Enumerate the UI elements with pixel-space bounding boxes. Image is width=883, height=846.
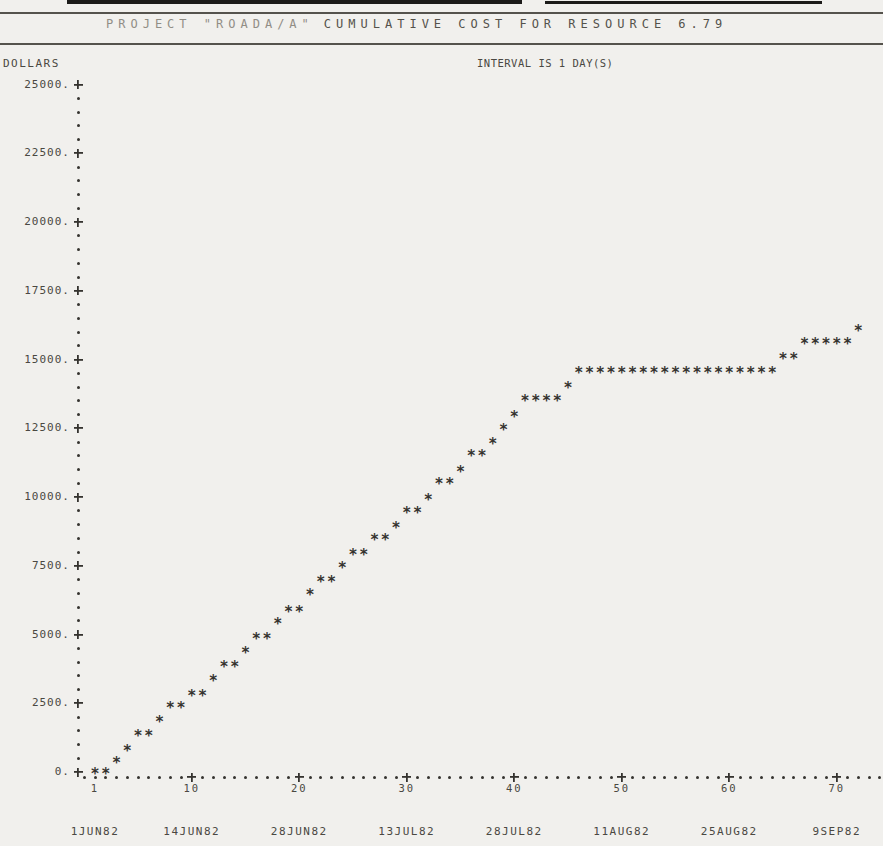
x-axis-major-tick: [295, 773, 304, 782]
y-axis-major-tick: [74, 493, 83, 502]
y-axis-minor-tick: [77, 399, 80, 402]
y-axis-major-tick: [74, 218, 83, 227]
x-axis-minor-tick: [266, 776, 269, 779]
data-point: *: [456, 465, 465, 480]
data-point: *: [574, 366, 583, 381]
data-point: *: [596, 366, 605, 381]
y-axis-minor-tick: [77, 551, 80, 554]
x-axis-label: 70: [817, 782, 857, 794]
y-axis-minor-tick: [77, 674, 80, 677]
x-axis-major-tick: [832, 773, 841, 782]
x-axis-minor-tick: [373, 776, 376, 779]
data-point: *: [811, 337, 820, 352]
data-point: *: [843, 337, 852, 352]
y-axis-major-tick: [74, 355, 83, 364]
x-axis-minor-tick: [674, 776, 677, 779]
data-point: *: [306, 588, 315, 603]
x-axis-minor-tick: [470, 776, 473, 779]
data-point: *: [854, 324, 863, 339]
x-axis-minor-tick: [459, 776, 462, 779]
data-point: *: [424, 493, 433, 508]
data-point: *: [295, 605, 304, 620]
x-axis-minor-tick: [857, 776, 860, 779]
y-axis-major-tick: [74, 149, 83, 158]
y-axis-major-tick: [74, 768, 83, 777]
data-point: *: [671, 366, 680, 381]
y-axis-label: 5000.: [0, 628, 70, 641]
y-axis-major-tick: [74, 80, 83, 89]
x-axis-minor-tick: [427, 776, 430, 779]
y-axis-minor-tick: [77, 179, 80, 182]
y-axis-minor-tick: [77, 606, 80, 609]
x-axis-minor-tick: [276, 776, 279, 779]
data-point: *: [521, 394, 530, 409]
data-point: *: [381, 533, 390, 548]
y-axis-minor-tick: [77, 303, 80, 306]
data-point: *: [779, 352, 788, 367]
data-point: *: [639, 366, 648, 381]
data-point: *: [273, 617, 282, 632]
x-axis-minor-tick: [567, 776, 570, 779]
y-axis-minor-tick: [77, 317, 80, 320]
x-axis-minor-tick: [631, 776, 634, 779]
x-axis-major-tick: [617, 773, 626, 782]
x-axis-minor-tick: [169, 776, 172, 779]
data-point: *: [112, 756, 121, 771]
x-axis-minor-tick: [771, 776, 774, 779]
y-axis-minor-tick: [77, 729, 80, 732]
x-axis-minor-tick: [545, 776, 548, 779]
x-axis-minor-tick: [223, 776, 226, 779]
plot-area: 25000.22500.20000.17500.15000.12500.1000…: [0, 0, 883, 846]
data-point: *: [693, 366, 702, 381]
x-axis-minor-tick: [416, 776, 419, 779]
data-point: *: [607, 366, 616, 381]
data-point: *: [564, 381, 573, 396]
data-point: *: [155, 715, 164, 730]
data-point: *: [327, 575, 336, 590]
data-point: *: [768, 366, 777, 381]
data-point: *: [703, 366, 712, 381]
x-axis-major-tick: [725, 773, 734, 782]
x-axis-minor-tick: [749, 776, 752, 779]
x-axis-minor-tick: [610, 776, 613, 779]
y-axis-minor-tick: [77, 386, 80, 389]
x-axis-minor-tick: [137, 776, 140, 779]
x-axis-date-label: 11AUG82: [580, 825, 664, 838]
y-axis-major-tick: [74, 424, 83, 433]
x-axis-date-label: 9SEP82: [795, 825, 879, 838]
data-point: *: [349, 548, 358, 563]
x-axis-minor-tick: [384, 776, 387, 779]
x-axis-minor-tick: [717, 776, 720, 779]
y-axis-minor-tick: [77, 647, 80, 650]
y-axis-minor-tick: [77, 124, 80, 127]
y-axis-minor-tick: [77, 207, 80, 210]
data-point: *: [467, 449, 476, 464]
y-axis-label: 25000.: [0, 78, 70, 91]
x-axis-minor-tick: [868, 776, 871, 779]
x-axis-minor-tick: [126, 776, 129, 779]
x-axis-label: 40: [494, 782, 534, 794]
data-point: *: [682, 366, 691, 381]
y-axis-label: 12500.: [0, 421, 70, 434]
y-axis-major-tick: [74, 699, 83, 708]
data-point: *: [800, 337, 809, 352]
data-point: *: [166, 701, 175, 716]
x-axis-minor-tick: [147, 776, 150, 779]
y-axis-minor-tick: [77, 413, 80, 416]
y-axis-minor-tick: [77, 331, 80, 334]
x-axis-minor-tick: [395, 776, 398, 779]
x-axis-minor-tick: [115, 776, 118, 779]
x-axis-date-label: 28JUL82: [472, 825, 556, 838]
y-axis-minor-tick: [77, 578, 80, 581]
data-point: *: [746, 366, 755, 381]
y-axis-minor-tick: [77, 757, 80, 760]
data-point: *: [220, 660, 229, 675]
x-axis-major-tick: [187, 773, 196, 782]
y-axis-minor-tick: [77, 344, 80, 347]
y-axis-minor-tick: [77, 537, 80, 540]
x-axis-date-label: 14JUN82: [150, 825, 234, 838]
y-axis-minor-tick: [77, 468, 80, 471]
data-point: *: [499, 423, 508, 438]
x-axis-minor-tick: [696, 776, 699, 779]
y-axis-label: 15000.: [0, 353, 70, 366]
